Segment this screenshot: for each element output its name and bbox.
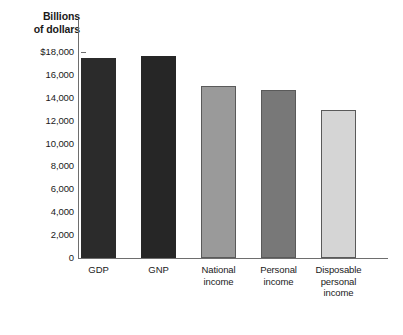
- y-axis-tick-label: 0: [69, 251, 74, 264]
- y-axis-tick-label: 8,000: [51, 159, 74, 172]
- y-axis-tick-label: 14,000: [46, 91, 74, 104]
- x-axis-label-line: National: [189, 264, 249, 276]
- bar-chart: Billions of dollars $18,00016,00014,0001…: [0, 0, 403, 335]
- y-axis-tick-label: 12,000: [46, 114, 74, 127]
- x-axis-label-line: personal: [309, 276, 369, 288]
- y-axis-tick-mark: [81, 258, 86, 259]
- x-axis-label-line: income: [249, 276, 309, 288]
- y-axis-tick-label: 16,000: [46, 68, 74, 81]
- x-axis-label-national-income: Nationalincome: [189, 264, 249, 287]
- x-axis-label-line: income: [309, 287, 369, 299]
- x-axis-line: [78, 258, 388, 259]
- y-axis-tick-label: $18,000: [40, 45, 74, 58]
- bar-personal-income: [261, 90, 296, 258]
- bar-disposable-personal-income: [321, 110, 356, 258]
- bar-gnp: [141, 56, 176, 258]
- x-axis-label-line: Personal: [249, 264, 309, 276]
- y-axis-line: [78, 20, 79, 258]
- x-axis-label-line: GDP: [69, 264, 129, 276]
- y-axis-tick-label: 2,000: [51, 228, 74, 241]
- y-axis-tick-label: 10,000: [46, 137, 74, 150]
- x-axis-label-line: Disposable: [309, 264, 369, 276]
- x-axis-label-gdp: GDP: [69, 264, 129, 276]
- y-axis-tick-label: 4,000: [51, 205, 74, 218]
- bar-national-income: [201, 86, 236, 258]
- x-axis-label-line: GNP: [129, 264, 189, 276]
- y-axis-tick-label: 6,000: [51, 182, 74, 195]
- x-axis-label-personal-income: Personalincome: [249, 264, 309, 287]
- x-axis-label-gnp: GNP: [129, 264, 189, 276]
- y-axis-tick-mark: [81, 52, 86, 53]
- bar-gdp: [81, 58, 116, 258]
- x-axis-label-line: income: [189, 276, 249, 288]
- x-axis-label-disposable-personal-income: Disposablepersonalincome: [309, 264, 369, 299]
- plot-area: $18,00016,00014,00012,00010,0008,0006,00…: [0, 0, 403, 335]
